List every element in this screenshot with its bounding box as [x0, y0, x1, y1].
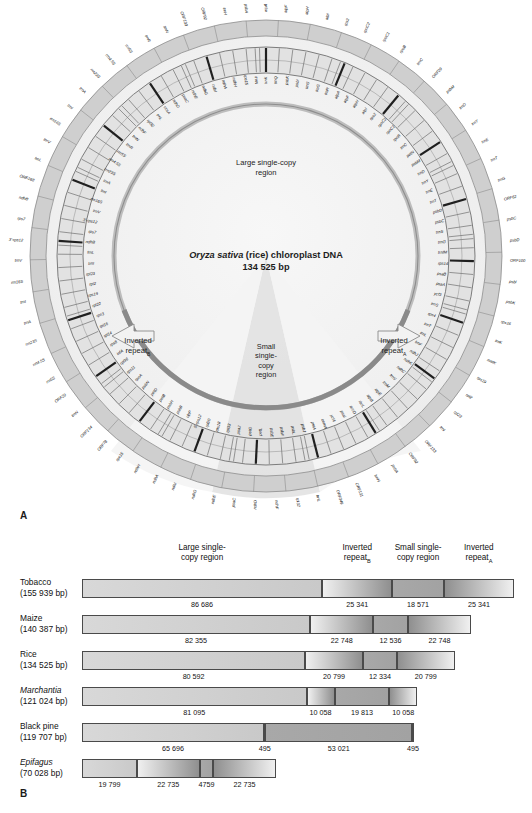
genome-segment: [82, 651, 305, 670]
gene-label: trnV: [15, 259, 22, 264]
panel-label-a: A: [20, 510, 27, 521]
genome-bar: [82, 687, 417, 706]
gene-label: rpl23: [86, 272, 95, 277]
species-genome-size: (121 024 bp): [20, 696, 68, 706]
gene-label: psbE: [269, 428, 274, 437]
segment-value: 53 021: [309, 744, 369, 753]
gene-label: trnK: [264, 77, 269, 84]
genome-bar: [82, 723, 414, 742]
genome-bar: [82, 615, 471, 634]
segment-value: 65 696: [143, 744, 203, 753]
species-genome-size: (70 028 bp): [20, 768, 63, 778]
gene-label: 3'-rps12: [8, 237, 23, 242]
segment-value: 80 592: [164, 672, 224, 681]
gene-label: psbA: [243, 4, 248, 13]
segment-value: 22 735: [215, 780, 275, 789]
genome-segment: [305, 651, 363, 670]
species-row-label: Black pine(119 707 bp): [20, 721, 67, 743]
genome-segment: [335, 687, 390, 706]
genome-segment: [82, 723, 264, 742]
species-name: Epifagus: [20, 757, 53, 767]
genome-segment: [200, 759, 213, 778]
genome-segment: [82, 687, 307, 706]
column-header: Large single-copy region: [142, 543, 262, 564]
panel-b-genome-comparison: Large single-copy regionInvertedrepeatBS…: [0, 535, 532, 813]
region-label-ssc: Small single- copy region: [16, 342, 516, 380]
column-header-line1: Inverted: [464, 543, 494, 552]
species-name: Rice: [20, 649, 37, 659]
column-header-line1: Large single-: [178, 543, 225, 552]
gene-label: ndhI: [211, 83, 218, 92]
gene-label: trnI: [20, 299, 26, 305]
segment-value: 25 341: [327, 600, 387, 609]
genome-segment: [265, 723, 412, 742]
species-row-label: Epifagus(70 028 bp): [20, 757, 63, 779]
gene-label: atpA: [264, 4, 269, 12]
segment-value: 81 095: [164, 708, 224, 717]
segment-value: 22 748: [409, 636, 469, 645]
genome-segment: [397, 651, 455, 670]
species-name: Black pine: [20, 721, 59, 731]
panel-a-chloroplast-map: Large single-copy region Oryza sativa (r…: [0, 0, 532, 535]
segment-value: 82 355: [166, 636, 226, 645]
species-name: Marchantia: [20, 685, 61, 695]
column-header-subscript: A: [489, 558, 493, 564]
gene-label: trnG: [437, 240, 445, 245]
genome-segment: [137, 759, 200, 778]
genome-segment: [307, 687, 335, 706]
genome-segment: [82, 615, 310, 634]
gene-label: trnS: [436, 230, 444, 236]
genome-segment: [373, 615, 408, 634]
genome-segment: [389, 687, 417, 706]
circular-genome-map: Large single-copy region Oryza sativa (r…: [16, 6, 516, 506]
gene-label: psbF: [279, 427, 284, 436]
gene-label: trnI: [88, 261, 94, 266]
gene-label: petL: [258, 428, 263, 436]
gene-label: trnL: [314, 494, 320, 502]
column-header-line2: copy region: [181, 553, 223, 562]
genome-bar: [82, 579, 514, 598]
gene-label: ORF100: [510, 259, 525, 264]
gene-label: psbL: [289, 426, 295, 435]
species-genome-size: (140 387 bp): [20, 624, 68, 634]
segment-value: 10 058: [373, 708, 433, 717]
species-name: Maize: [20, 613, 42, 623]
species-genome-size: (155 939 bp): [20, 588, 68, 598]
segment-value: 20 799: [396, 672, 456, 681]
gene-label: ndhA: [221, 79, 228, 89]
species-genome-size: (134 525 bp): [20, 660, 68, 670]
genome-segment: [412, 723, 414, 742]
genome-segment: [408, 615, 471, 634]
gene-label: rpl32: [294, 498, 300, 507]
gene-label: psbK: [284, 76, 290, 86]
gene-label: ndhD: [253, 500, 258, 510]
species-genome-size: (119 707 bp): [20, 732, 67, 742]
segment-value: 86 686: [172, 600, 232, 609]
genome-segment: [322, 579, 392, 598]
gene-label: rps14: [438, 261, 448, 266]
gene-label: ndhF: [274, 500, 279, 509]
gene-label: psbJ: [300, 424, 306, 433]
segment-value: 25 341: [449, 600, 509, 609]
genome-segment: [82, 759, 137, 778]
gene-label: ndhH: [231, 77, 237, 87]
segment-value: 495: [383, 744, 443, 753]
genome-segment: [363, 651, 397, 670]
genome-segment: [444, 579, 514, 598]
species-row-label: Marchantia(121 024 bp): [20, 685, 68, 707]
genome-segment: [82, 579, 322, 598]
species-row-label: Rice(134 525 bp): [20, 649, 68, 671]
column-header-line2: repeat: [465, 553, 488, 562]
gene-label: rrn16S: [11, 279, 23, 285]
column-header: InvertedrepeatA: [419, 543, 532, 566]
genome-bar: [82, 759, 276, 778]
gene-label: trnQ: [274, 76, 279, 84]
gene-label: ndhB: [85, 240, 95, 245]
gene-label: psbI: [508, 279, 516, 284]
figure-root: Large single-copy region Oryza sativa (r…: [0, 0, 532, 813]
gene-label: petA: [310, 421, 317, 430]
panel-label-b: B: [20, 788, 27, 799]
gene-label: petG: [248, 427, 253, 436]
gene-label: rps15: [242, 75, 248, 85]
gene-label: trnL: [87, 251, 94, 256]
